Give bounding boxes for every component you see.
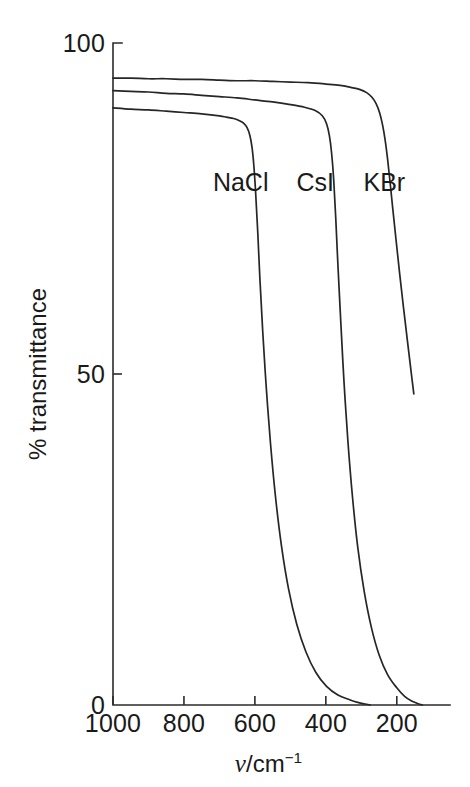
- y-axis-title: % transmittance: [26, 288, 50, 460]
- x-tick-label: 600: [234, 711, 276, 736]
- x-axis-exponent: −1: [285, 749, 303, 766]
- x-axis-unit: /cm: [246, 750, 285, 777]
- transmittance-chart-figure: 1000800600400200 050100 NaClCsIKBr ν/cm−…: [0, 0, 470, 787]
- y-tick-label: 0: [0, 693, 105, 718]
- nu-symbol: ν: [235, 750, 246, 777]
- chart-canvas: [0, 0, 470, 787]
- axes-group: [113, 43, 450, 705]
- axis-lines: [113, 43, 450, 705]
- x-tick-label: 400: [305, 711, 347, 736]
- x-axis-title: ν/cm−1: [235, 751, 302, 776]
- curve-nacl: [113, 108, 370, 705]
- series-label-nacl: NaCl: [213, 170, 269, 195]
- series-label-kbr: KBr: [364, 170, 406, 195]
- x-tick-label: 200: [376, 711, 418, 736]
- x-tick-label: 800: [163, 711, 205, 736]
- series-label-csi: CsI: [296, 170, 334, 195]
- y-tick-label: 100: [0, 31, 105, 56]
- y-tick-label: 50: [0, 362, 105, 387]
